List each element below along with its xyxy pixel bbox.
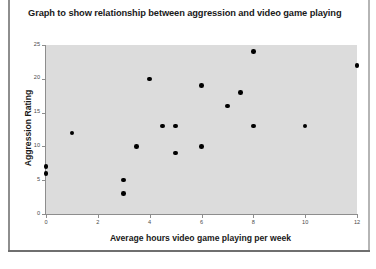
scatter-point <box>199 83 204 88</box>
scatter-point <box>121 191 126 196</box>
scatter-point <box>225 104 230 109</box>
scatter-point <box>251 49 256 54</box>
scatter-point <box>199 144 204 149</box>
y-axis-tick: 25 <box>42 45 46 46</box>
y-axis-tick: 20 <box>42 79 46 80</box>
scatter-point <box>44 164 49 169</box>
y-axis-tick: 15 <box>42 113 46 114</box>
scanned-chart-page: Graph to show relationship between aggre… <box>0 0 376 269</box>
y-axis-tick-label: 5 <box>37 176 40 182</box>
scatter-point <box>355 63 360 68</box>
scatter-point <box>238 90 243 95</box>
chart-title: Graph to show relationship between aggre… <box>28 8 358 18</box>
page-border-right <box>368 0 370 252</box>
scatter-point <box>44 171 49 176</box>
x-axis-tick-label: 8 <box>252 219 255 225</box>
y-axis-tick-label: 0 <box>37 210 40 216</box>
x-axis-tick: 8 <box>253 214 254 218</box>
y-axis-tick: 5 <box>42 180 46 181</box>
page-border-bottom <box>8 250 370 252</box>
y-axis-label: Aggression Rating <box>22 48 34 208</box>
scatter-point <box>70 131 75 136</box>
x-axis-tick: 10 <box>305 214 306 218</box>
scatter-point <box>147 77 152 82</box>
x-axis-tick: 6 <box>202 214 203 218</box>
x-axis-tick-label: 4 <box>148 219 151 225</box>
x-axis-tick-label: 6 <box>200 219 203 225</box>
scatter-point <box>251 124 256 129</box>
x-axis-tick-label: 2 <box>96 219 99 225</box>
y-axis-tick-label: 10 <box>34 142 40 148</box>
y-axis-tick-label: 20 <box>34 74 40 80</box>
x-axis-tick: 12 <box>357 214 358 218</box>
scatter-point <box>160 124 165 129</box>
x-axis-label: Average hours video game playing per wee… <box>45 233 356 243</box>
x-axis-tick-label: 0 <box>44 219 47 225</box>
scatter-point <box>173 124 178 129</box>
x-axis-tick: 2 <box>98 214 99 218</box>
page-border-left <box>8 0 10 252</box>
scatter-point <box>121 178 126 183</box>
y-axis-tick-label: 25 <box>34 41 40 47</box>
plot-area: 0510152025 024681012 <box>45 45 357 215</box>
x-axis-tick: 0 <box>46 214 47 218</box>
scatter-point <box>173 151 178 156</box>
y-axis-label-text: Aggression Rating <box>23 90 33 166</box>
y-axis-tick-label: 15 <box>34 108 40 114</box>
x-axis-tick-label: 10 <box>302 219 308 225</box>
scatter-point <box>303 124 308 129</box>
scatter-point <box>134 144 139 149</box>
x-axis-tick-label: 12 <box>354 219 360 225</box>
y-axis-tick: 10 <box>42 146 46 147</box>
x-axis-tick: 4 <box>150 214 151 218</box>
